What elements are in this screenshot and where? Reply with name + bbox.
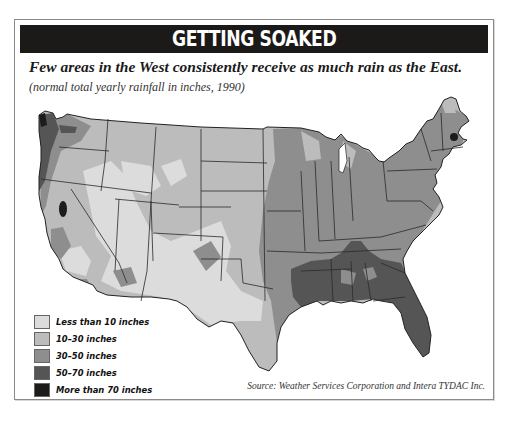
legend-swatch: [34, 366, 50, 380]
legend-label: More than 70 inches: [56, 384, 152, 395]
legend-swatch: [34, 349, 50, 363]
legend-label: 30–50 inches: [56, 350, 117, 361]
legend-swatch: [34, 315, 50, 329]
legend-item: Less than 10 inches: [34, 313, 165, 330]
figure-frame: GETTING SOAKED Few areas in the West con…: [14, 19, 494, 400]
legend-label: Less than 10 inches: [56, 316, 149, 327]
source-credit: Source: Weather Services Corporation and…: [247, 381, 485, 391]
legend: Less than 10 inches 10–30 inches 30–50 i…: [34, 313, 165, 398]
legend-item: 30–50 inches: [34, 347, 165, 364]
legend-item: More than 70 inches: [34, 381, 165, 398]
legend-label: 10–30 inches: [56, 333, 117, 344]
legend-swatch: [34, 332, 50, 346]
legend-item: 10–30 inches: [34, 330, 165, 347]
legend-label: 50–70 inches: [56, 367, 117, 378]
legend-swatch: [34, 383, 50, 397]
legend-item: 50–70 inches: [34, 364, 165, 381]
